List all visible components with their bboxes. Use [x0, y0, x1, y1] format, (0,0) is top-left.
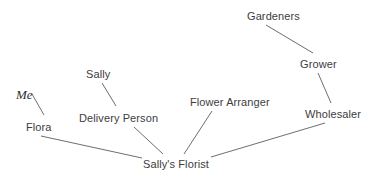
node-label-flower-arranger: Flower Arranger — [190, 96, 270, 109]
edge-sally-delivery-person — [102, 83, 116, 106]
edge-arranger-sallys-florist — [184, 111, 212, 154]
node-label-sallys-florist: Sally's Florist — [143, 158, 209, 171]
node-label-grower: Grower — [300, 58, 337, 71]
node-label-flora: Flora — [26, 121, 52, 134]
edge-grower-wholesaler — [318, 73, 331, 103]
edge-layer — [0, 0, 374, 181]
edge-flora-sallys-florist — [41, 136, 142, 158]
node-label-gardeners: Gardeners — [247, 10, 300, 23]
node-label-me: Me — [16, 88, 33, 101]
edge-me-flora — [32, 94, 44, 115]
node-label-sally: Sally — [86, 68, 110, 81]
edge-delivery-sallys-florist — [134, 127, 163, 154]
edge-wholesaler-florist — [211, 123, 325, 157]
edge-gardeners-grower — [266, 25, 313, 53]
node-label-delivery-person: Delivery Person — [79, 112, 158, 125]
node-label-wholesaler: Wholesaler — [305, 108, 361, 121]
diagram-canvas: MeFloraSallyDelivery PersonFlower Arrang… — [0, 0, 374, 181]
